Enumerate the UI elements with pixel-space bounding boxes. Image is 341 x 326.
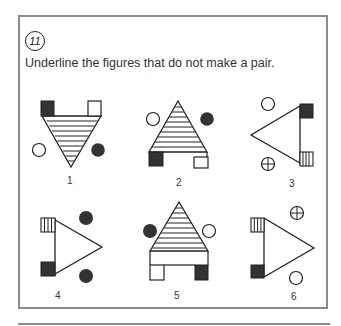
striped-square: [300, 152, 313, 166]
white-circle: [147, 113, 160, 126]
figure-label-3: 3: [289, 178, 295, 189]
white-circle: [203, 225, 216, 238]
black-square: [195, 265, 208, 280]
black-circle: [79, 211, 93, 225]
figure-label-5: 5: [174, 290, 180, 301]
figure-6[interactable]: [251, 207, 314, 285]
figure-5[interactable]: [143, 202, 216, 280]
white-square: [194, 157, 208, 168]
figure-label-6: 6: [291, 291, 297, 302]
white-circle: [262, 98, 275, 111]
figure-4[interactable]: [41, 211, 102, 283]
figure-label-4: 4: [55, 290, 61, 301]
white-square: [150, 265, 164, 280]
figure-2[interactable]: [145, 101, 214, 168]
black-circle: [200, 112, 214, 126]
black-square: [41, 101, 54, 116]
striped-square: [251, 218, 264, 232]
figure-label-2: 2: [176, 177, 182, 188]
figure-label-1: 1: [67, 175, 73, 186]
black-circle: [91, 143, 105, 157]
black-circle: [143, 224, 157, 238]
white-square: [88, 101, 101, 116]
white-circle: [290, 272, 303, 285]
figure-1[interactable]: [33, 101, 105, 167]
figure-3[interactable]: [251, 98, 313, 171]
crosshair-circle: [291, 207, 304, 220]
black-square: [251, 265, 264, 278]
black-square: [149, 152, 163, 166]
white-circle: [33, 144, 46, 157]
black-square: [300, 104, 313, 118]
striped-square: [41, 218, 55, 232]
black-circle: [79, 269, 93, 283]
crosshair-circle: [262, 158, 275, 171]
figures-canvas: [0, 0, 341, 326]
black-square: [41, 262, 55, 276]
